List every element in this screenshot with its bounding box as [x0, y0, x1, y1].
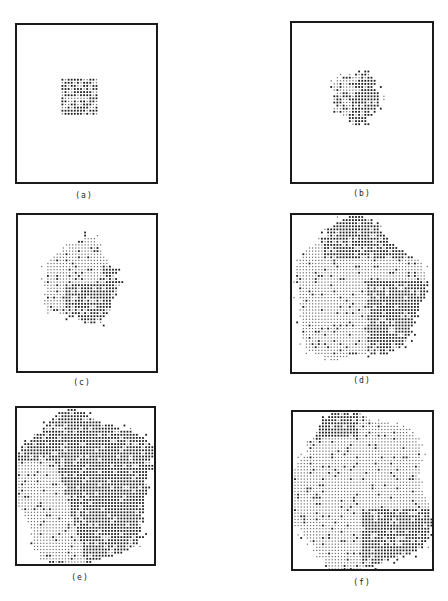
panel-d-dot-pattern [292, 215, 434, 374]
panel-e-caption: (e) [60, 573, 100, 582]
panel-d-caption: (d) [342, 376, 382, 385]
panel-a-dot-pattern [17, 25, 158, 184]
panel-e-frame [15, 406, 156, 566]
panel-b-frame [290, 21, 434, 184]
panel-a-frame [15, 23, 158, 184]
panel-c-caption: (c) [62, 378, 102, 387]
panel-e-dot-pattern [17, 408, 156, 566]
panel-c-frame [16, 213, 158, 373]
panel-a-caption: (a) [64, 191, 104, 200]
panel-b-caption: (b) [342, 189, 382, 198]
panel-f-caption: (f) [342, 578, 382, 587]
panel-b-dot-pattern [292, 23, 434, 184]
panel-c-dot-pattern [18, 215, 158, 373]
panel-d-frame [290, 213, 434, 374]
panel-f-dot-pattern [293, 412, 434, 571]
panel-f-frame [291, 410, 434, 571]
